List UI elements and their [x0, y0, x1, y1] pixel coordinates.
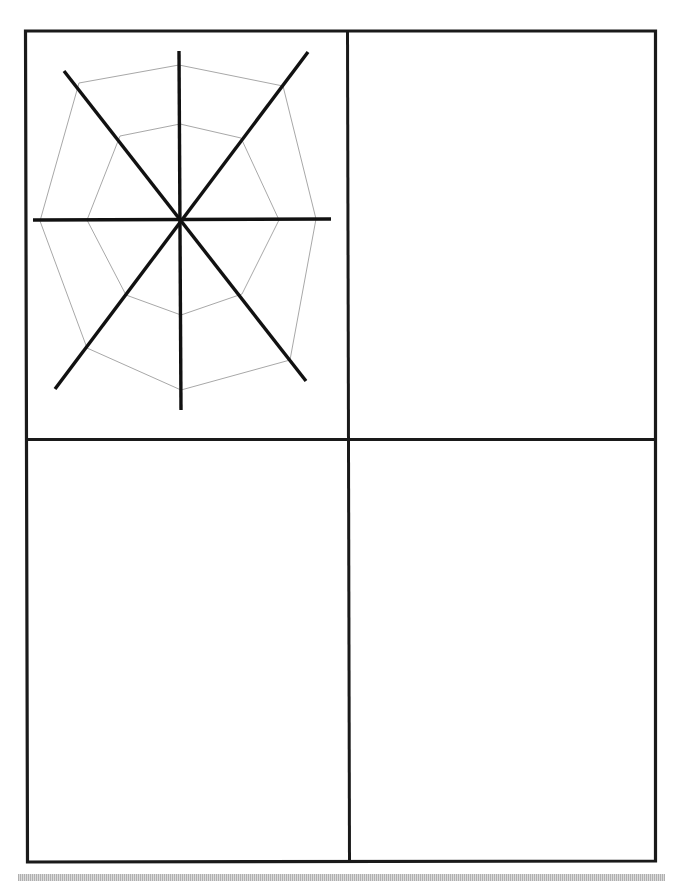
- worksheet-page: [0, 0, 682, 882]
- panel-top-left: [27, 33, 346, 438]
- panel-bottom-right: [351, 441, 654, 860]
- panel-top-right: [350, 33, 654, 438]
- panel-bottom-left: [28, 441, 347, 860]
- grid-vertical-divider: [348, 31, 350, 862]
- spoke-vertical: [179, 51, 181, 410]
- footer-scan-band: [18, 874, 665, 881]
- drawing-grid: [0, 0, 682, 882]
